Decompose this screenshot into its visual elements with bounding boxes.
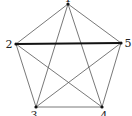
edge-2-4 [16,44,102,107]
edges-group [16,4,121,107]
edge-2-5 [16,43,121,44]
vertex-label-4: 4 [101,109,108,116]
labels-group: 12345 [6,0,132,116]
edge-1-3 [36,4,68,107]
edge-1-4 [68,4,102,107]
vertex-label-1: 1 [65,0,72,5]
edge-2-3 [16,44,36,107]
vertex-5 [119,41,122,44]
vertex-label-5: 5 [125,37,132,50]
edge-3-5 [36,43,121,107]
vertex-2 [14,42,17,45]
graph-diagram: 12345 [0,0,132,116]
edge-1-2 [16,4,68,44]
edge-1-5 [68,4,121,43]
vertex-label-2: 2 [6,38,13,51]
edge-4-5 [102,43,121,107]
vertex-label-3: 3 [31,109,38,116]
